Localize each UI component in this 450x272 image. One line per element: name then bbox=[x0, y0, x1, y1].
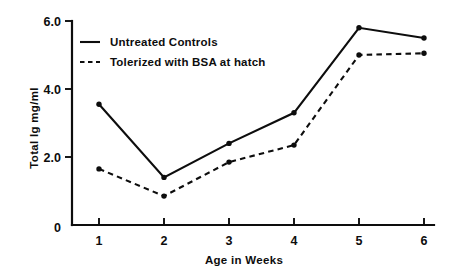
data-point bbox=[226, 159, 231, 164]
x-tick-label-3: 3 bbox=[226, 234, 233, 248]
series-line-1 bbox=[99, 28, 424, 178]
x-tick-label-5: 5 bbox=[356, 234, 363, 248]
x-tick-label-4: 4 bbox=[291, 234, 298, 248]
x-tick-label-6: 6 bbox=[421, 234, 428, 248]
y-axis-title: Total Ig mg/ml bbox=[28, 87, 40, 168]
y-tick-label-6: 6.0 bbox=[44, 15, 61, 29]
data-point bbox=[291, 110, 296, 115]
data-point bbox=[356, 25, 361, 30]
data-point bbox=[421, 51, 426, 56]
data-point bbox=[161, 193, 166, 198]
chart-legend: Untreated Controls Tolerized with BSA at… bbox=[80, 36, 266, 68]
y-tick-label-2: 2.0 bbox=[44, 151, 61, 165]
legend-label-untreated-controls: Untreated Controls bbox=[110, 36, 218, 48]
data-point bbox=[356, 52, 361, 57]
data-point bbox=[421, 35, 426, 40]
data-series-group bbox=[96, 25, 426, 199]
x-tick-label-1: 1 bbox=[96, 234, 103, 248]
data-point bbox=[96, 166, 101, 171]
data-point bbox=[291, 142, 296, 147]
line-chart-canvas: 6.0 4.0 2.0 0 1 2 3 4 5 6 Age in Weeks T… bbox=[0, 0, 450, 272]
y-tick-label-0: 0 bbox=[54, 221, 61, 235]
x-tick-label-2: 2 bbox=[161, 234, 168, 248]
data-point bbox=[161, 175, 166, 180]
data-point bbox=[226, 141, 231, 146]
chart-figure: 6.0 4.0 2.0 0 1 2 3 4 5 6 Age in Weeks T… bbox=[0, 0, 450, 272]
legend-label-tolerized-bsa: Tolerized with BSA at hatch bbox=[110, 56, 266, 68]
y-tick-label-4: 4.0 bbox=[44, 83, 61, 97]
series-line-2 bbox=[99, 53, 424, 196]
data-point bbox=[96, 102, 101, 107]
x-axis-title: Age in Weeks bbox=[205, 254, 283, 266]
